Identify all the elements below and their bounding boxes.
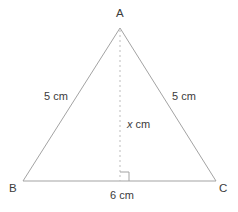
base-length-label: 6 cm: [110, 190, 134, 201]
triangle-drawing: [0, 0, 238, 212]
vertex-label-a: A: [116, 8, 124, 19]
vertex-label-b: B: [9, 183, 17, 194]
height-unit: cm: [136, 118, 151, 130]
height-label: x cm: [127, 119, 150, 130]
right-angle-icon: [120, 172, 129, 181]
geometry-figure: A B C 5 cm 5 cm x cm 6 cm: [0, 0, 238, 212]
triangle-side-ab: [23, 28, 120, 181]
vertex-label-c: C: [219, 183, 227, 194]
side-length-label-right: 5 cm: [172, 91, 196, 102]
triangle-side-ac: [120, 28, 216, 181]
side-length-label-left: 5 cm: [44, 91, 68, 102]
